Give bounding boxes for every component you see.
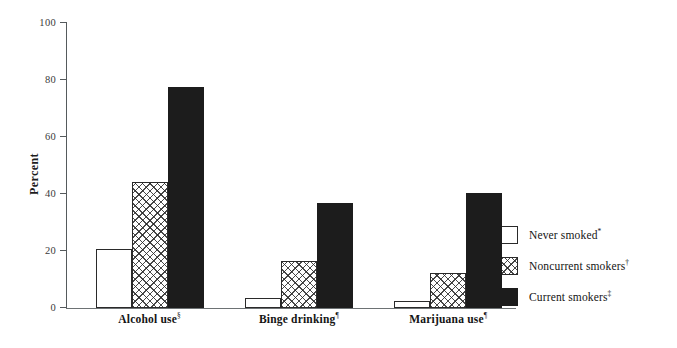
y-axis-tick-label: 80 — [45, 74, 56, 85]
y-axis-tick-label: 0 — [50, 302, 56, 313]
y-axis-tick: 80 — [60, 79, 67, 80]
y-axis-title: Percent — [27, 153, 42, 195]
bar-noncurrent-smokers-marijuana-use — [430, 273, 466, 308]
legend-label: Never smoked* — [529, 229, 601, 241]
legend-label: Noncurrent smokers† — [529, 260, 629, 272]
bar-current-smokers-alcohol-use — [168, 87, 204, 308]
footnote-marker: * — [598, 227, 602, 236]
x-axis-label-alcohol-use: Alcohol use§ — [118, 313, 181, 325]
y-axis-tick-label: 20 — [45, 245, 56, 256]
footnote-marker: ¶ — [336, 311, 340, 320]
x-axis-label-binge-drinking: Binge drinking¶ — [259, 313, 339, 325]
footnote-marker: † — [625, 258, 629, 267]
legend-label: Current smokers‡ — [529, 291, 612, 303]
y-axis-tick: 100 — [60, 22, 67, 23]
bar-never-smoked-alcohol-use — [96, 249, 132, 308]
legend-item-current-smokers: Current smokers‡ — [497, 281, 672, 312]
bar-never-smoked-binge-drinking — [245, 298, 281, 308]
y-axis-tick-label: 40 — [45, 188, 56, 199]
legend-item-never-smoked: Never smoked* — [497, 219, 672, 250]
plot-area: 020406080100 — [67, 23, 515, 308]
x-axis-line — [66, 308, 516, 309]
x-axis-label-marijuana-use: Marijuana use¶ — [409, 313, 487, 325]
bar-noncurrent-smokers-alcohol-use — [132, 182, 168, 308]
bar-current-smokers-marijuana-use — [466, 193, 502, 308]
y-axis-tick: 20 — [60, 250, 67, 251]
bar-never-smoked-marijuana-use — [394, 301, 430, 308]
footnote-marker: ¶ — [484, 311, 488, 320]
y-axis-tick-label: 60 — [45, 131, 56, 142]
bar-noncurrent-smokers-binge-drinking — [281, 261, 317, 308]
footnote-marker: § — [177, 311, 181, 320]
y-axis-tick: 60 — [60, 136, 67, 137]
chart-legend: Never smoked*Noncurrent smokers†Current … — [497, 219, 672, 312]
legend-item-noncurrent-smokers: Noncurrent smokers† — [497, 250, 672, 281]
y-axis-tick: 0 — [60, 307, 67, 308]
bar-chart-figure: Percent 020406080100 Alcohol use§Binge d… — [0, 0, 677, 348]
y-axis-tick: 40 — [60, 193, 67, 194]
footnote-marker: ‡ — [608, 289, 612, 298]
y-axis-tick-label: 100 — [39, 17, 56, 28]
bar-current-smokers-binge-drinking — [317, 203, 353, 308]
